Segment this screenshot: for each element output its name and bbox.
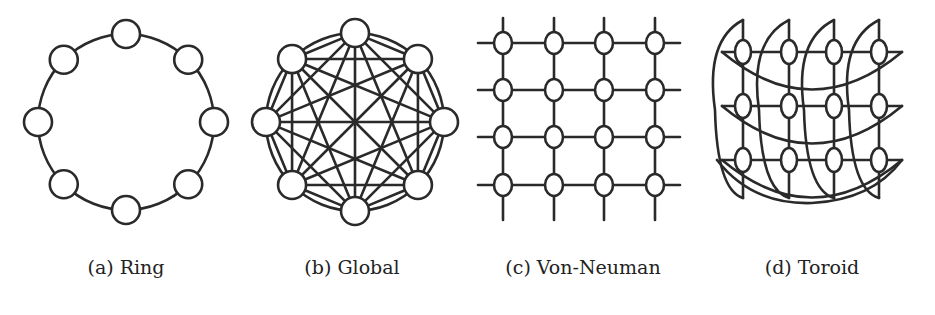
grid-node [646, 79, 664, 101]
toroid-node [735, 94, 751, 118]
grid-node [545, 126, 563, 148]
grid-node [545, 32, 563, 54]
grid-node [545, 79, 563, 101]
grid-node [494, 32, 512, 54]
global-node [252, 108, 280, 136]
ring-node [200, 108, 228, 136]
toroid-node [826, 94, 842, 118]
caption-toroid: (d) Toroid [765, 256, 859, 278]
global-node [430, 108, 458, 136]
toroid-node [735, 40, 751, 64]
ring-node [24, 108, 52, 136]
ring-node [174, 170, 202, 198]
grid-node [646, 174, 664, 196]
toroid-node [871, 148, 887, 172]
caption-ring: (a) Ring [88, 256, 165, 278]
panel-ring-diagram [24, 20, 228, 224]
grid-node [595, 32, 613, 54]
grid-node [646, 32, 664, 54]
global-node [404, 171, 432, 199]
grid-node [494, 174, 512, 196]
global-node [404, 45, 432, 73]
ring-node [112, 20, 140, 48]
grid-node [494, 126, 512, 148]
grid-node [545, 174, 563, 196]
caption-global: (b) Global [304, 256, 399, 278]
toroid-node [735, 148, 751, 172]
grid-node [595, 79, 613, 101]
toroid-node [781, 94, 797, 118]
toroid-node [826, 40, 842, 64]
toroid-node [826, 148, 842, 172]
caption-von-neuman: (c) Von-Neuman [505, 256, 660, 278]
toroid-node [871, 40, 887, 64]
global-node [341, 19, 369, 47]
panel-global-diagram [252, 19, 458, 225]
toroid-node [871, 94, 887, 118]
grid-node [595, 174, 613, 196]
ring-node [112, 196, 140, 224]
panel-toroid-diagram [713, 20, 902, 203]
toroid-node [781, 40, 797, 64]
global-node [278, 45, 306, 73]
grid-node [494, 79, 512, 101]
ring-node [174, 46, 202, 74]
ring-node [50, 46, 78, 74]
toroid-node [781, 148, 797, 172]
global-node [278, 171, 306, 199]
panel-von-neuman-diagram [478, 18, 680, 220]
ring-node [50, 170, 78, 198]
grid-node [595, 126, 613, 148]
grid-node [646, 126, 664, 148]
global-node [341, 197, 369, 225]
